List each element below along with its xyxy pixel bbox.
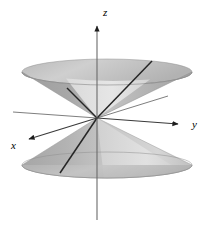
lower-cone-rim-front-arc: [22, 165, 192, 178]
lower-cone: [22, 118, 192, 178]
upper-cone: [22, 59, 192, 118]
double-cone-diagram: z y x: [0, 0, 209, 226]
figure-container: z y x: [0, 0, 209, 226]
axis-y: [97, 118, 178, 124]
x-axis-label: x: [10, 139, 16, 151]
z-axis-label: z: [102, 6, 108, 18]
negative-y-extension-line: [13, 112, 97, 118]
y-axis-label: y: [191, 118, 197, 130]
y-axis-line: [97, 118, 178, 124]
